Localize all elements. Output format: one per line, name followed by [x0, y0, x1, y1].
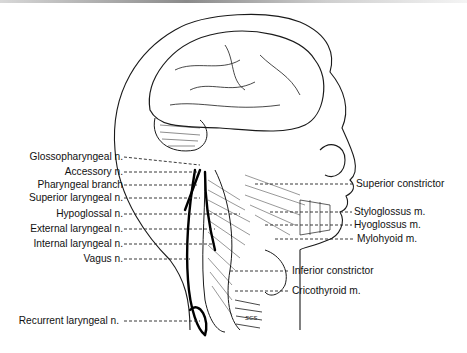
ear-outline — [320, 145, 345, 177]
label-accessory-nerve: Accessory n. — [65, 166, 123, 178]
label-mylohyoid-muscle: Mylohyoid m. — [357, 233, 417, 245]
label-recurrent-laryngeal-nerve: Recurrent laryngeal n. — [19, 315, 119, 327]
face-profile-outline — [175, 14, 355, 330]
back-of-head-outline — [114, 30, 190, 330]
label-external-laryngeal-nerve: External laryngeal n. — [30, 223, 123, 235]
label-hyoglossus-muscle: Hyoglossus m. — [354, 219, 421, 231]
label-styloglossus-muscle: Styloglossus m. — [354, 206, 425, 218]
brain-outline — [149, 31, 323, 131]
label-glossopharyngeal-nerve: Glossopharyngeal n. — [30, 151, 123, 163]
label-superior-constrictor: Superior constrictor — [356, 178, 444, 190]
artist-signature: SCS — [245, 315, 257, 321]
label-hypoglossal-nerve: Hypoglossal n. — [56, 208, 123, 220]
nerve-trunks — [185, 170, 215, 335]
label-superior-laryngeal-nerve: Superior laryngeal n. — [29, 192, 123, 204]
label-cricothyroid-muscle: Cricothyroid m. — [292, 285, 361, 297]
label-vagus-nerve: Vagus n. — [84, 253, 123, 265]
label-internal-laryngeal-nerve: Internal laryngeal n. — [34, 238, 123, 250]
label-pharyngeal-branch: Pharyngeal branch — [37, 179, 123, 191]
label-inferior-constrictor: Inferior constrictor — [292, 265, 374, 277]
